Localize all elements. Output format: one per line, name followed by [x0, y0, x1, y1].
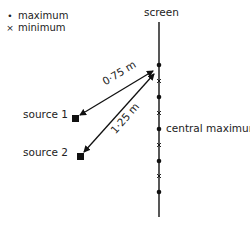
- distance-arrow-2: [84, 74, 154, 152]
- maximum-dot-icon: [157, 63, 162, 68]
- maximum-dot-icon: [157, 190, 162, 195]
- maximum-dot-icon: [157, 159, 162, 164]
- source-1-label: source 1: [23, 108, 68, 120]
- central-maximum-label: central maximum: [166, 122, 250, 134]
- maximum-dot-icon: [157, 95, 162, 100]
- central-maximum-dot-icon: [157, 127, 162, 132]
- source-1-square-icon: [72, 115, 79, 122]
- source-2-label: source 2: [23, 146, 68, 158]
- screen-label: screen: [144, 6, 179, 18]
- source-2-square-icon: [77, 153, 84, 160]
